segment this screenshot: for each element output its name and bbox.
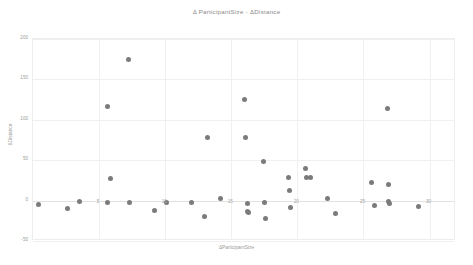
y-axis-ticks: -50050100150200 <box>0 0 473 265</box>
scatter-chart: Δ ParticipantSize - ΔDistance -500501001… <box>0 0 473 265</box>
y-axis-tick-label: 200 <box>4 35 28 40</box>
x-axis-title: ΔParticipantSize <box>0 245 473 250</box>
x-axis-tick-label: 30 <box>426 198 431 203</box>
x-axis-tick-label: 10 <box>162 198 167 203</box>
y-axis-tick-label: 0 <box>4 197 28 202</box>
y-axis-tick-label: -50 <box>4 237 28 242</box>
x-axis-tick-label: 15 <box>228 198 233 203</box>
x-axis-tick-label: 5 <box>97 198 100 203</box>
x-axis-tick-label: 20 <box>294 198 299 203</box>
x-axis-tick-label: 25 <box>360 198 365 203</box>
y-axis-title: ΔDistance <box>8 112 13 158</box>
y-axis-tick-label: 150 <box>4 75 28 80</box>
